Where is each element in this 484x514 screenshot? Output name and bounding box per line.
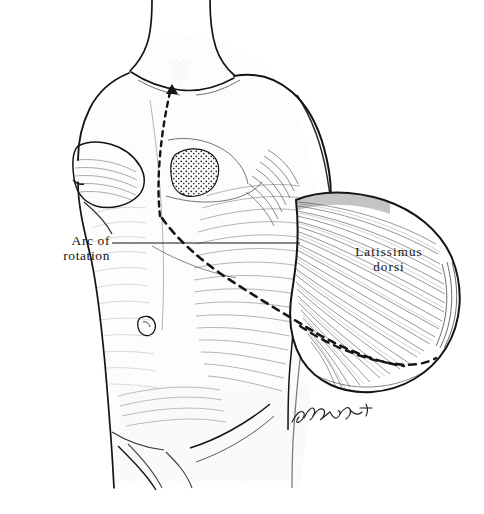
illustration-canvas: Arc of rotation Latissimus dorsi — [0, 0, 484, 514]
arc-label-line1: Arc of — [12, 233, 110, 248]
arc-label-line2: rotation — [12, 248, 110, 263]
latissimus-dorsi-label: Latissimus dorsi — [330, 244, 448, 274]
lat-label-line1: Latissimus — [330, 244, 448, 259]
chest-wall-defect — [171, 149, 219, 197]
lat-label-line2: dorsi — [330, 259, 448, 274]
arc-of-rotation-label: Arc of rotation — [12, 233, 110, 263]
latissimus-dorsi-flap — [290, 190, 460, 396]
